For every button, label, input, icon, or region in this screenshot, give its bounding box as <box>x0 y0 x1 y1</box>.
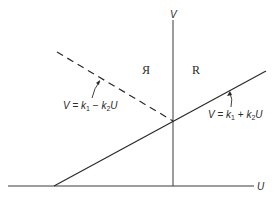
dashed-line-equation: V = k1 − k2U <box>63 100 118 112</box>
solid-line-equation: V = k1 + k2U <box>208 109 263 121</box>
diagram-canvas: V U Я R V = k1 − k2U V = k1 + k2U <box>0 0 274 202</box>
arrowhead-icon <box>96 80 100 85</box>
u-axis-label: U <box>257 181 265 192</box>
region-label-right: R <box>192 63 200 77</box>
v-axis-label: V <box>170 9 178 20</box>
solid-line-increasing <box>54 71 266 186</box>
region-label-left: Я <box>142 63 150 77</box>
